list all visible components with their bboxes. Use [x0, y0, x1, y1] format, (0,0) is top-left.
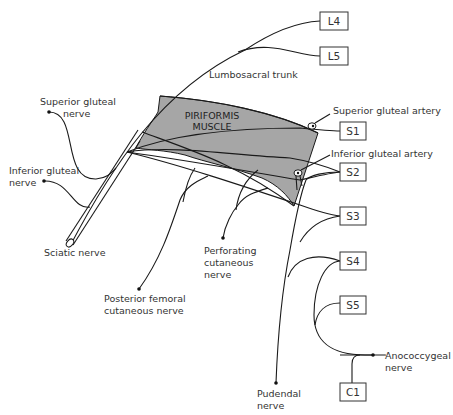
inferior-gluteal-nerve-dot	[42, 179, 46, 183]
inferior-gluteal-nerve-line	[44, 181, 90, 207]
anococcygeal-nerve-label-line1: Anococcygeal	[385, 350, 451, 361]
sciatic-nerve-inner	[73, 141, 140, 245]
perforating-cutaneous-dot	[221, 236, 225, 240]
inferior-gluteal-artery-lumen	[297, 172, 299, 174]
s5-root-line	[315, 303, 340, 325]
superior-gluteal-nerve-label-line2: nerve	[63, 108, 90, 119]
root-label-c1: C1	[346, 386, 360, 398]
anococcygeal-nerve-dot	[371, 353, 375, 357]
root-box-c1: C1	[340, 383, 366, 401]
pudendal-nerve-label-line2: nerve	[257, 400, 284, 411]
posterior-femoral-cutaneous-nerve-label-line2: cutaneous nerve	[104, 305, 184, 316]
root-label-s4: S4	[346, 255, 360, 267]
sciatic-nerve-label: Sciatic nerve	[44, 247, 106, 258]
piriformis-label-line2: MUSCLE	[192, 121, 231, 132]
root-label-l4: L4	[328, 15, 341, 27]
l5-root-line	[238, 47, 320, 56]
posterior-femoral-cutaneous-nerve-label-line1: Posterior femoral	[104, 293, 186, 304]
posterior-femoral-branch	[183, 168, 195, 202]
perforating-cutaneous-nerve-label-line3: nerve	[204, 269, 231, 280]
sciatic-nerve-outer	[66, 130, 138, 241]
posterior-femoral-cutaneous-nerve-line	[139, 176, 208, 289]
piriformis-label-line1: PIRIFORMIS	[185, 110, 240, 121]
pudendal-nerve-label-line1: Pudendal	[257, 388, 301, 399]
pudendal-nerve-dot	[274, 381, 278, 385]
inferior-gluteal-nerve-label-line2: nerve	[9, 177, 36, 188]
root-box-s3: S3	[340, 207, 366, 225]
superior-gluteal-nerve-label-line1: Superior gluteal	[40, 96, 116, 107]
c1-root-line	[352, 355, 360, 383]
s3-root-line	[300, 216, 340, 242]
s4-root-line	[288, 257, 340, 277]
superior-gluteal-artery-label: Superior gluteal artery	[333, 105, 441, 116]
perforating-cutaneous-nerve-line	[223, 188, 268, 238]
root-label-s2: S2	[346, 166, 359, 178]
anococcygeal-nerve-label-line2: nerve	[385, 362, 412, 373]
superior-gluteal-artery-lumen	[312, 125, 314, 127]
inferior-gluteal-artery-label: Inferior gluteal artery	[331, 148, 433, 159]
superior-gluteal-artery-leader	[315, 114, 330, 123]
sacral-plexus-diagram: L4 L5 S1 S2 S3 S4 S5 C1 PIRIFORMIS MUSCL…	[0, 0, 453, 415]
perforating-cutaneous-nerve-label-line2: cutaneous	[204, 257, 253, 268]
posterior-femoral-cutaneous-dot	[137, 287, 141, 291]
root-label-s3: S3	[346, 210, 359, 222]
root-label-l5: L5	[328, 50, 341, 62]
root-box-l4: L4	[320, 12, 348, 30]
root-box-s5: S5	[340, 296, 366, 314]
superior-gluteal-nerve-dot	[47, 110, 51, 114]
pudendal-nerve-line	[276, 180, 306, 383]
inferior-gluteal-nerve-label-line1: Inferior gluteal	[9, 165, 79, 176]
root-label-s5: S5	[346, 299, 359, 311]
root-box-s2: S2	[340, 163, 366, 181]
root-box-s4: S4	[340, 252, 366, 270]
perforating-cutaneous-nerve-label-line1: Perforating	[204, 245, 256, 256]
root-label-s1: S1	[346, 125, 359, 137]
root-box-s1: S1	[340, 122, 366, 140]
root-box-l5: L5	[320, 47, 348, 65]
lumbosacral-trunk-label: Lumbosacral trunk	[209, 69, 298, 80]
